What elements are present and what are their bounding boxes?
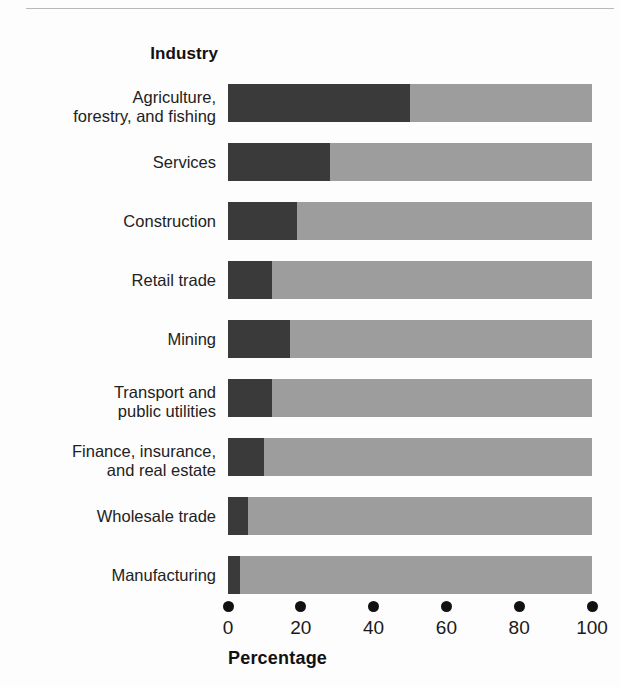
- axis-tick-label: 40: [363, 617, 384, 639]
- axis-tick-dot: [223, 601, 234, 612]
- axis-tick-dot: [587, 601, 598, 612]
- figure-panel: Industry Agriculture, forestry, and fish…: [0, 0, 620, 687]
- axis-tick-label: 80: [509, 617, 530, 639]
- axis-tick-dot: [295, 601, 306, 612]
- value-axis: 0 20 40 60 80 100 Percentage: [0, 0, 620, 687]
- value-axis-title: Percentage: [228, 648, 327, 669]
- axis-tick-dot: [368, 601, 379, 612]
- axis-tick-label: 20: [290, 617, 311, 639]
- axis-tick-label: 60: [436, 617, 457, 639]
- axis-tick-label: 100: [576, 617, 608, 639]
- axis-tick-label: 0: [223, 617, 234, 639]
- axis-tick-dot: [441, 601, 452, 612]
- axis-tick-dot: [514, 601, 525, 612]
